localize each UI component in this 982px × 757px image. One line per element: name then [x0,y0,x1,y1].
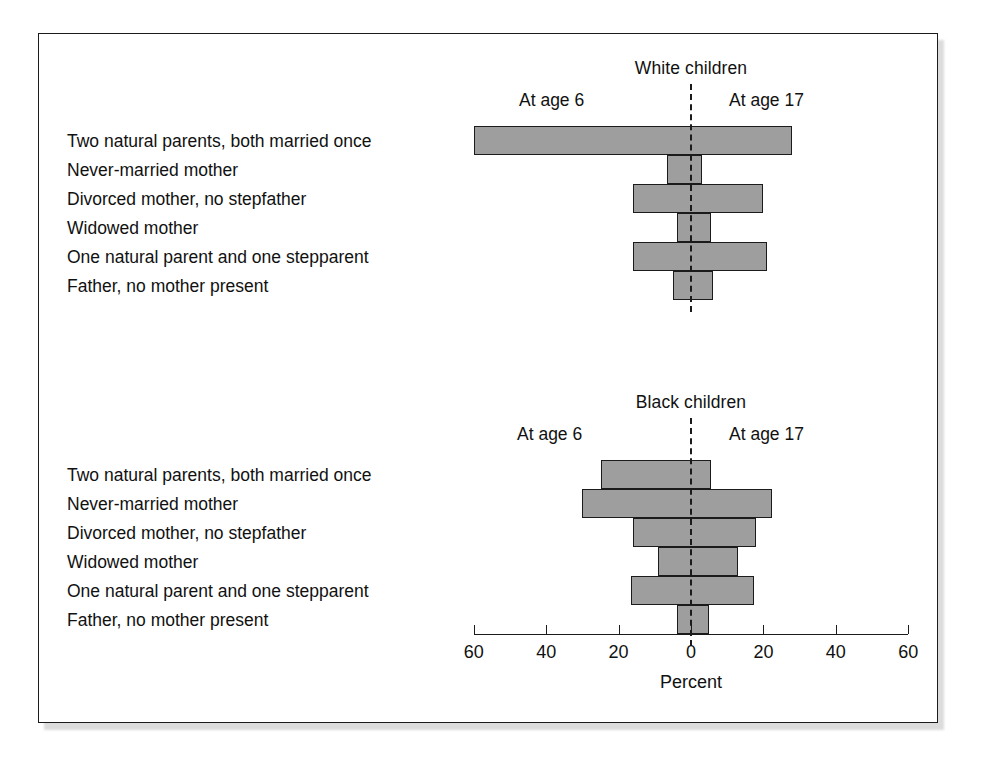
category-label: Never-married mother [67,161,238,179]
category-label: Divorced mother, no stepfather [67,190,306,208]
panel-title-white-children: White children [541,58,841,79]
zero-reference-line [690,418,692,646]
series-label-right-black: At age 17 [729,424,804,445]
category-label: Widowed mother [67,219,198,237]
category-label: One natural parent and one stepparent [67,248,369,266]
x-axis-tick-label: 0 [686,642,696,663]
x-axis-tick-label: 20 [609,642,629,663]
bar [601,460,711,489]
bar [667,155,701,184]
x-axis-tick [763,625,764,634]
bar [633,518,756,547]
x-axis-tick [836,625,837,634]
x-axis-tick [546,625,547,634]
figure-root: White children At age 6 At age 17 Two na… [0,0,982,757]
figure-plate: White children At age 6 At age 17 Two na… [38,33,938,723]
x-axis-title: Percent [660,672,722,693]
category-label: Two natural parents, both married once [67,466,371,484]
x-axis-tick-label: 40 [536,642,556,663]
series-label-left-black: At age 6 [517,424,582,445]
series-label-left-white: At age 6 [519,90,584,111]
x-axis-tick [908,625,909,634]
x-axis-line [474,634,908,635]
x-axis-tick [474,625,475,634]
x-axis-tick-label: 60 [898,642,918,663]
zero-reference-line [690,84,692,312]
bar [673,271,713,300]
category-label: Father, no mother present [67,277,268,295]
series-label-right-white: At age 17 [729,90,804,111]
bar [582,489,772,518]
category-label: Never-married mother [67,495,238,513]
x-axis-tick [691,625,692,634]
x-axis-tick-label: 20 [753,642,773,663]
category-label: Two natural parents, both married once [67,132,371,150]
x-axis-tick [619,625,620,634]
bar [631,576,754,605]
bar [658,547,738,576]
bar [633,242,767,271]
bar [677,213,711,242]
panel-title-black-children: Black children [541,392,841,413]
bar [474,126,793,155]
bar [677,605,710,634]
panel-white-children: White children At age 6 At age 17 Two na… [39,48,939,348]
x-axis-tick-label: 60 [464,642,484,663]
category-label: Divorced mother, no stepfather [67,524,306,542]
x-axis-tick-label: 40 [826,642,846,663]
category-label: Widowed mother [67,553,198,571]
panel-black-children: Black children At age 6 At age 17 Two na… [39,352,939,652]
category-label: Father, no mother present [67,611,268,629]
category-label: One natural parent and one stepparent [67,582,369,600]
bar [633,184,763,213]
